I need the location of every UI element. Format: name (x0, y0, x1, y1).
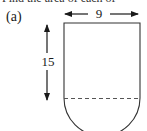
height-label: 15 (42, 54, 55, 69)
width-label: 9 (96, 6, 103, 21)
shape-outline (64, 23, 140, 131)
composite-shape-diagram: 9 15 (0, 0, 147, 131)
